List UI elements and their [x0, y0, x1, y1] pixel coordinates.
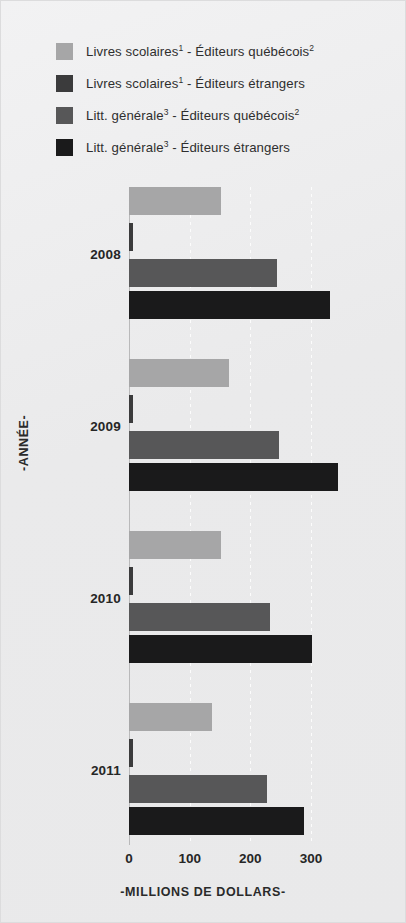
bar-group-2011 [129, 703, 342, 843]
plot-area [129, 187, 342, 845]
legend-swatch-light-gray [56, 43, 73, 60]
legend-label-litt-generale-etrangers: Litt. générale3 - Éditeurs étrangers [86, 140, 290, 155]
year-label-2010: 2010 [71, 591, 121, 606]
tick-label-0: 0 [125, 851, 133, 866]
bar-2008-livres-quebecois [129, 187, 221, 215]
bar-2010-litt-quebecois [129, 603, 270, 631]
bar-2008-litt-quebecois [129, 259, 277, 287]
bar-2011-livres-quebecois [129, 703, 212, 731]
legend-item-litt-generale-etrangers: Litt. générale3 - Éditeurs étrangers [56, 133, 376, 161]
y-axis-title: -ANNÉE- [17, 415, 31, 471]
legend-swatch-dark-gray [56, 75, 73, 92]
bar-group-2010 [129, 531, 342, 671]
bar-group-2009 [129, 359, 342, 499]
bar-2011-litt-quebecois [129, 775, 267, 803]
legend-label-livres-scolaires-etrangers: Livres scolaires1 - Éditeurs étrangers [86, 76, 305, 91]
tick-label-300: 300 [300, 851, 323, 866]
legend-item-livres-scolaires-quebecois: Livres scolaires1 - Éditeurs québécois2 [56, 37, 376, 65]
chart-legend: Livres scolaires1 - Éditeurs québécois2 … [56, 37, 376, 165]
legend-swatch-medium-gray [56, 107, 73, 124]
tick-label-200: 200 [239, 851, 262, 866]
legend-label-livres-scolaires-quebecois: Livres scolaires1 - Éditeurs québécois2 [86, 44, 314, 59]
bar-2011-litt-etrangers [129, 807, 304, 835]
bar-2009-litt-quebecois [129, 431, 279, 459]
tick-label-100: 100 [178, 851, 201, 866]
year-label-2008: 2008 [71, 247, 121, 262]
legend-label-litt-generale-quebecois: Litt. générale3 - Éditeurs québécois2 [86, 108, 299, 123]
bar-2010-litt-etrangers [129, 635, 312, 663]
bar-2011-livres-etrangers [129, 739, 133, 767]
bar-2008-litt-etrangers [129, 291, 330, 319]
bar-2010-livres-etrangers [129, 567, 133, 595]
legend-swatch-black [56, 139, 73, 156]
bar-2009-livres-quebecois [129, 359, 229, 387]
year-label-2011: 2011 [71, 763, 121, 778]
legend-item-litt-generale-quebecois: Litt. générale3 - Éditeurs québécois2 [56, 101, 376, 129]
legend-item-livres-scolaires-etrangers: Livres scolaires1 - Éditeurs étrangers [56, 69, 376, 97]
chart-figure: Livres scolaires1 - Éditeurs québécois2 … [0, 0, 406, 923]
year-label-2009: 2009 [71, 419, 121, 434]
bar-2010-livres-quebecois [129, 531, 221, 559]
bar-2008-livres-etrangers [129, 223, 133, 251]
bar-2009-livres-etrangers [129, 395, 133, 423]
bar-group-2008 [129, 187, 342, 327]
x-axis-title: -MILLIONS DE DOLLARS- [1, 885, 405, 899]
bar-2009-litt-etrangers [129, 463, 338, 491]
